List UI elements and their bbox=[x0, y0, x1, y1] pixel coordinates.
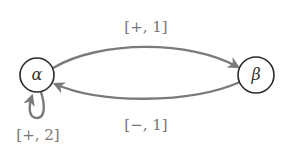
arrow-alpha-to-beta bbox=[53, 47, 238, 68]
node-beta: β bbox=[238, 57, 274, 93]
node-alpha: α bbox=[20, 58, 54, 92]
edge-beta-to-alpha: [−, 1] bbox=[55, 82, 240, 134]
edge-label-alpha-self-loop: [+, 2] bbox=[16, 126, 59, 144]
state-diagram: [+, 1] [−, 1] [+, 2] α β bbox=[0, 0, 290, 152]
node-beta-label: β bbox=[250, 65, 260, 84]
arrow-alpha-self-loop bbox=[30, 92, 44, 118]
edge-label-alpha-to-beta: [+, 1] bbox=[124, 18, 167, 36]
edge-label-beta-to-alpha: [−, 1] bbox=[124, 116, 167, 134]
node-alpha-label: α bbox=[32, 65, 43, 84]
arrow-beta-to-alpha bbox=[55, 82, 240, 99]
edge-alpha-to-beta: [+, 1] bbox=[53, 18, 238, 68]
edge-alpha-self-loop: [+, 2] bbox=[16, 92, 59, 144]
